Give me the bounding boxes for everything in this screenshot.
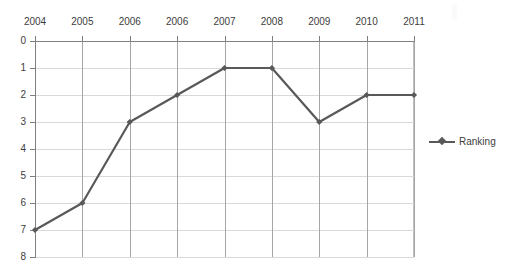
y-axis-tick-label: 6 [0,197,26,208]
y-axis-tick-label: 8 [0,251,26,262]
x-axis-tick [130,36,131,42]
y-axis-tick-label: 2 [0,89,26,100]
y-axis-tick [30,68,36,69]
legend-marker-icon [429,136,455,147]
y-axis-tick [30,257,36,258]
gridline-horizontal [35,257,414,258]
chart-screenshot: 200420052006200620072008200920102011 012… [0,0,513,277]
y-axis-tick-label: 7 [0,224,26,235]
y-axis-tick-label: 0 [0,35,26,46]
y-axis-tick-label: 5 [0,170,26,181]
gridline-vertical [82,41,83,257]
gridline-vertical [367,41,368,257]
gridline-vertical [272,41,273,257]
gridline-vertical [177,41,178,257]
x-axis-tick [82,36,83,42]
y-axis-tick [30,230,36,231]
x-axis-tick [414,36,415,42]
y-axis-tick-label: 4 [0,143,26,154]
y-axis-tick [30,95,36,96]
gridline-vertical [225,41,226,257]
y-axis-tick [30,203,36,204]
legend-label-ranking: Ranking [459,136,496,147]
gridline-vertical [319,41,320,257]
x-axis-tick [367,36,368,42]
y-axis-tick [30,122,36,123]
chart-legend: Ranking [429,136,496,147]
y-axis-tick-label: 3 [0,116,26,127]
y-axis-tick [30,149,36,150]
scan-artifact [452,4,457,20]
x-axis-tick [177,36,178,42]
x-axis-tick [225,36,226,42]
gridline-vertical [130,41,131,257]
y-axis-tick [30,176,36,177]
x-axis-tick [272,36,273,42]
y-axis-tick-label: 1 [0,62,26,73]
plot-area [35,41,414,257]
x-axis-tick-label: 2011 [384,16,444,27]
x-axis-tick [319,36,320,42]
gridline-vertical [414,41,415,257]
x-axis-tick [35,36,36,42]
